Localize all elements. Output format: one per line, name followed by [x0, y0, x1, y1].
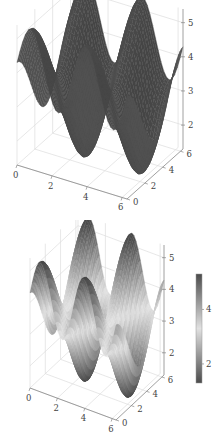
x-tick-label: 4	[81, 413, 86, 423]
x-tick-label: 6	[118, 202, 123, 212]
surface-plot-2-svg: 02460246234524	[0, 220, 221, 437]
y-tick-label: 4	[169, 165, 174, 175]
y-tick-label: 2	[151, 181, 156, 191]
x-tick-label: 6	[108, 424, 113, 434]
x-tick-label: 0	[26, 393, 31, 403]
y-tick-label: 0	[133, 197, 138, 207]
z-tick-label: 2	[188, 120, 193, 130]
surface-plot-1-svg: 024602462345	[0, 0, 221, 220]
surface-plot-colormap: 02460246234524	[0, 220, 221, 437]
surface	[30, 220, 164, 397]
z-tick-label: 4	[169, 284, 174, 294]
z-tick-label: 2	[169, 348, 174, 358]
z-tick-label: 3	[169, 316, 174, 326]
y-tick-label: 0	[122, 418, 127, 428]
y-tick-label: 6	[168, 375, 173, 385]
z-tick-label: 5	[169, 253, 174, 263]
x-tick-label: 4	[83, 192, 88, 202]
z-tick-label: 4	[188, 52, 193, 62]
surface-plot-uniform: 024602462345	[0, 0, 221, 220]
y-tick-label: 2	[137, 404, 142, 414]
y-tick-label: 4	[153, 389, 158, 399]
x-tick-label: 2	[48, 181, 53, 191]
z-tick-label: 5	[188, 18, 193, 28]
x-tick-label: 2	[53, 403, 58, 413]
colorbar-tick-label: 2	[206, 359, 211, 369]
y-tick-label: 6	[187, 149, 192, 159]
colorbar: 24	[196, 274, 211, 383]
colorbar-tick-label: 4	[206, 304, 211, 314]
x-tick-label: 0	[13, 170, 18, 180]
z-tick-label: 3	[188, 86, 193, 96]
